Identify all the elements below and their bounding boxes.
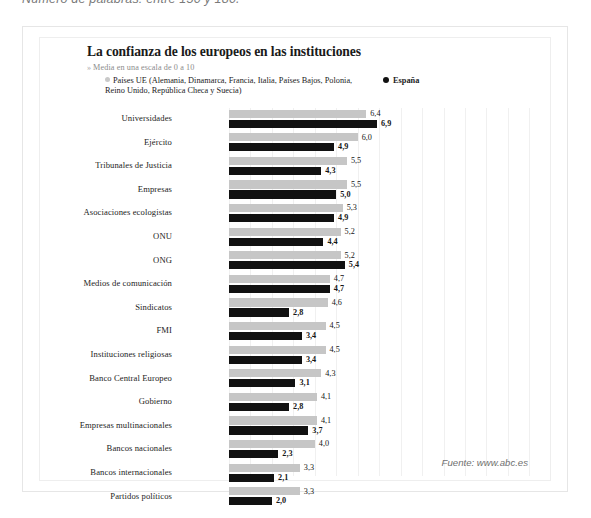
bar-value-spain: 5,0 [340, 191, 350, 199]
bar-value-spain: 4,3 [325, 167, 335, 175]
spain-dot-icon [383, 77, 389, 83]
chart-title: La confianza de los europeos en las inst… [87, 44, 540, 60]
chart-row: FMI4,53,4 [40, 320, 550, 344]
bar-spain [229, 426, 308, 434]
eu-dot-icon [105, 77, 110, 82]
bar-group: 5,24,4 [229, 226, 550, 250]
legend-label-eu: Países UE (Alemania, Dinamarca, Francia,… [105, 76, 352, 95]
category-label: Universidades [0, 113, 172, 123]
bar-spain [229, 261, 345, 269]
legend-label-spain: España [393, 76, 419, 85]
bar-value-spain: 4,7 [334, 285, 344, 293]
bar-eu [229, 464, 300, 472]
category-label: ONU [0, 231, 172, 241]
bar-group: 4,53,4 [229, 320, 550, 344]
bar-value-spain: 6,9 [381, 120, 391, 128]
bar-group: 4,62,8 [229, 297, 550, 321]
category-label: Medios de comunicación [0, 278, 172, 288]
bar-eu [229, 180, 347, 188]
bar-value-spain: 3,4 [306, 356, 316, 364]
chart-plot-area: Universidades6,46,9Ejército6,04,9Tribuna… [40, 108, 550, 476]
bar-value-eu: 4,7 [334, 275, 344, 283]
bar-value-spain: 4,9 [338, 143, 348, 151]
bar-spain [229, 190, 336, 198]
bar-eu [229, 416, 317, 424]
chart-row: Tribunales de Justicia5,54,3 [40, 155, 550, 179]
chart-row: Empresas multinacionales4,13,7 [40, 415, 550, 439]
bar-group: 6,46,9 [229, 108, 550, 132]
bar-spain [229, 332, 302, 340]
source-note: Fuente: www.abc.es [442, 457, 528, 468]
chart-legend: Países UE (Alemania, Dinamarca, Francia,… [105, 76, 538, 100]
bar-value-spain: 3,7 [312, 427, 322, 435]
chart-subtitle: »Media en una escala de 0 a 10 [87, 63, 540, 72]
category-label: FMI [0, 325, 172, 335]
bar-eu [229, 110, 366, 118]
bar-eu [229, 440, 315, 448]
bar-value-eu: 5,5 [351, 181, 361, 189]
bar-value-spain: 2,0 [276, 497, 286, 505]
bar-eu [229, 369, 321, 377]
chart-row: Ejército6,04,9 [40, 132, 550, 156]
bar-eu [229, 487, 300, 495]
bar-spain [229, 356, 302, 364]
bar-spain [229, 143, 334, 151]
category-label: Sindicatos [0, 302, 172, 312]
bar-value-spain: 4,4 [327, 238, 337, 246]
category-label: Instituciones religiosas [0, 349, 172, 359]
bar-spain [229, 379, 295, 387]
bar-eu [229, 298, 328, 306]
category-label: Tribunales de Justicia [0, 160, 172, 170]
bar-value-spain: 5,4 [349, 261, 359, 269]
legend-item-eu: Países UE (Alemania, Dinamarca, Francia,… [105, 76, 360, 96]
bar-value-eu: 5,2 [345, 252, 355, 260]
bar-eu [229, 393, 317, 401]
chart-row: Empresas5,55,0 [40, 179, 550, 203]
bar-value-eu: 6,0 [362, 134, 372, 142]
bar-eu [229, 133, 358, 141]
category-label: Asociaciones ecologistas [0, 207, 172, 217]
bar-eu [229, 251, 341, 259]
bar-value-eu: 4,1 [321, 393, 331, 401]
chart-bar-rows: Universidades6,46,9Ejército6,04,9Tribuna… [40, 108, 550, 509]
bar-eu [229, 346, 326, 354]
bar-eu [229, 204, 343, 212]
bar-value-eu: 5,5 [351, 157, 361, 165]
bar-spain [229, 497, 272, 505]
bar-spain [229, 167, 321, 175]
bar-group: 6,04,9 [229, 132, 550, 156]
bar-value-spain: 2,8 [293, 309, 303, 317]
category-label: Banco Central Europeo [0, 373, 172, 383]
bar-group: 4,13,7 [229, 415, 550, 439]
chart-subtitle-text: Media en una escala de 0 a 10 [93, 63, 194, 72]
bar-spain [229, 238, 323, 246]
bar-value-eu: 4,5 [330, 322, 340, 330]
bar-value-eu: 4,5 [330, 346, 340, 354]
bar-eu [229, 228, 341, 236]
bar-spain [229, 285, 330, 293]
bar-value-eu: 3,3 [304, 488, 314, 496]
infographic-outer-frame: La confianza de los europeos en las inst… [22, 26, 568, 492]
category-label: Partidos políticos [0, 491, 172, 501]
bar-group: 4,33,1 [229, 368, 550, 392]
bar-group: 5,34,9 [229, 202, 550, 226]
chart-row: Universidades6,46,9 [40, 108, 550, 132]
bar-value-eu: 5,3 [347, 204, 357, 212]
bar-group: 4,53,4 [229, 344, 550, 368]
bar-group: 5,25,4 [229, 250, 550, 274]
chart-row: Medios de comunicación4,74,7 [40, 273, 550, 297]
chart-row: ONU5,24,4 [40, 226, 550, 250]
bar-group: 4,74,7 [229, 273, 550, 297]
bar-spain [229, 214, 334, 222]
chart-row: Gobierno4,12,8 [40, 391, 550, 415]
bar-eu [229, 275, 330, 283]
bar-value-eu: 4,1 [321, 417, 331, 425]
bar-group: 3,32,0 [229, 486, 550, 510]
infographic-inner-frame: La confianza de los europeos en las inst… [39, 37, 551, 481]
bar-spain [229, 120, 377, 128]
bar-value-eu: 3,3 [304, 464, 314, 472]
category-label: Empresas [0, 184, 172, 194]
bar-group: 5,55,0 [229, 179, 550, 203]
bar-group: 5,54,3 [229, 155, 550, 179]
category-label: Ejército [0, 137, 172, 147]
